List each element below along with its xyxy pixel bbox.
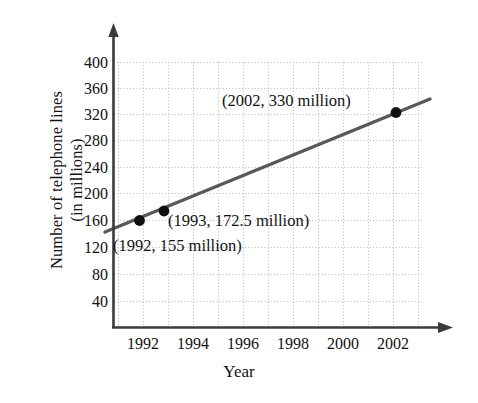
y-tick-label-80: 80	[64, 267, 108, 283]
data-point-1992	[134, 215, 145, 226]
x-axis	[112, 322, 453, 333]
y-axis	[108, 23, 118, 327]
x-axis-title: Year	[0, 362, 478, 382]
x-tick-label-1994: 1994	[165, 336, 221, 352]
y-tick-label-200: 200	[64, 186, 108, 202]
x-tick-label-2000: 2000	[315, 336, 371, 352]
y-tick-label-280: 280	[64, 133, 108, 149]
y-tick-label-160: 160	[64, 213, 108, 229]
y-tick-label-400: 400	[64, 55, 108, 71]
y-tick-label-320: 320	[64, 107, 108, 123]
x-tick-label-1992: 1992	[115, 336, 171, 352]
annotation-2002: (2002, 330 million)	[222, 92, 351, 110]
chart-figure: Number of telephone lines (in millions) …	[0, 0, 478, 403]
annotation-1992: (1992, 155 million)	[113, 237, 242, 255]
x-tick-label-2002: 2002	[365, 336, 421, 352]
x-tick-label-1996: 1996	[215, 336, 271, 352]
x-tick-label-1998: 1998	[265, 336, 321, 352]
y-tick-label-240: 240	[64, 160, 108, 176]
y-tick-label-40: 40	[64, 294, 108, 310]
y-tick-label-120: 120	[64, 240, 108, 256]
annotation-1993: (1993, 172.5 million)	[168, 212, 309, 230]
y-tick-label-360: 360	[64, 81, 108, 97]
y-axis-title-line2: (in millions)	[67, 30, 87, 330]
y-axis-title: Number of telephone lines (in millions)	[47, 30, 87, 330]
y-axis-title-line1: Number of telephone lines	[47, 30, 67, 330]
data-point-2002	[391, 107, 402, 118]
